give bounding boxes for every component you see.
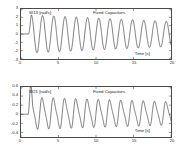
y-tick-label: -3 <box>14 58 18 62</box>
y-tick-label: -2 <box>14 49 18 53</box>
panel-bottom: -0.4-0.200.20.40.6 05101520 W21 [rad/s] … <box>0 78 182 156</box>
x-tick-label: 10 <box>94 139 99 143</box>
x-tick-label: 10 <box>94 61 99 65</box>
x-tick-label: 0 <box>19 61 21 65</box>
chart-title-top: Fixed Capacitors <box>93 11 125 15</box>
x-axis-title-bottom: Time [s] <box>135 129 150 133</box>
y-tick-label: -0.4 <box>11 131 18 135</box>
x-tick-label: 0 <box>19 139 21 143</box>
y-tick-label: 0 <box>16 112 18 116</box>
y-axis-labels-top: -3-2-10123 <box>0 8 18 60</box>
y-tick-label: 0.2 <box>12 103 18 107</box>
figure-two-panel-timeseries: -3-2-10123 05101520 W13 [rad/s] Fixed Ca… <box>0 0 182 156</box>
x-tick-label: 20 <box>170 61 175 65</box>
series-label-bottom: W21 [rad/s] <box>29 90 51 94</box>
y-tick-label: 0 <box>16 32 18 36</box>
x-tick-label: 15 <box>132 139 137 143</box>
panel-top: -3-2-10123 05101520 W13 [rad/s] Fixed Ca… <box>0 0 182 78</box>
series-label-top: W13 [rad/s] <box>29 11 51 15</box>
x-tick-label: 20 <box>170 139 175 143</box>
y-tick-label: -0.2 <box>11 122 18 126</box>
x-tick-label: 5 <box>57 61 59 65</box>
chart-title-bottom: Fixed Capacitors <box>93 90 125 94</box>
y-tick-label: 3 <box>16 6 18 10</box>
y-tick-label: 0.4 <box>12 93 18 97</box>
x-tick-label: 5 <box>57 139 59 143</box>
y-tick-label: 2 <box>16 15 18 19</box>
x-axis-labels-bottom: 05101520 <box>20 139 172 147</box>
y-axis-labels-bottom: -0.4-0.200.20.40.6 <box>0 86 18 138</box>
y-tick-label: 1 <box>16 23 18 27</box>
x-tick-label: 15 <box>132 61 137 65</box>
x-axis-labels-top: 05101520 <box>20 61 172 69</box>
y-tick-label: -1 <box>14 41 18 45</box>
x-axis-title-top: Time [s] <box>135 52 150 56</box>
y-tick-label: 0.6 <box>12 84 18 88</box>
